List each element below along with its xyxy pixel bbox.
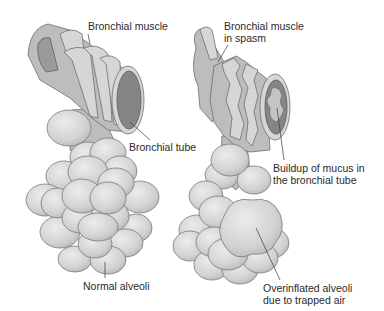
asthma-diagram [0,0,384,311]
label-bronchial-muscle: Bronchial muscle [88,20,168,32]
label-muscle-spasm-1: Bronchial muscle [224,20,304,32]
spasm-bronchiole [173,27,290,284]
label-normal-alveoli: Normal alveoli [83,280,150,292]
label-muscle-spasm-2: in spasm [224,32,266,44]
leader-muscle-spasm [218,45,228,62]
label-overinflated-2: due to trapped air [263,294,345,306]
label-overinflated-1: Overinflated alveoli [263,282,352,294]
leader-bronchial-muscle [88,34,90,44]
label-mucus-2: the bronchial tube [273,174,356,186]
label-bronchial-tube: Bronchial tube [129,141,196,153]
overinflated-alveoli-cluster [173,144,289,284]
label-mucus-1: Buildup of mucus in [273,162,365,174]
